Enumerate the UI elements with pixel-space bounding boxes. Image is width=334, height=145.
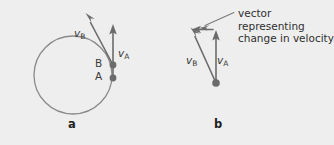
panel-b-vector-b-label: vB	[186, 55, 197, 66]
annotation-leader-line	[205, 13, 234, 26]
panel-b-vector-a-label: vA	[217, 55, 228, 66]
panel-b-origin-dot	[212, 79, 220, 87]
physics-figure: vB vA B A a vector representing change i…	[0, 0, 334, 145]
vector-b-arrowhead	[86, 13, 95, 23]
point-b-label: B	[95, 58, 102, 69]
panel-a-vector-a-label: vA	[118, 48, 129, 59]
panel-b-vector-a-subscript: A	[223, 59, 228, 68]
panel-a-vector-b-label: vB	[74, 28, 85, 39]
panel-b-vector-b-shaft	[195, 37, 216, 84]
point-b-dot	[110, 62, 117, 69]
change-in-velocity-annotation: vector representing change in velocity	[238, 7, 334, 45]
panel-a-vector-a-subscript: A	[124, 52, 129, 61]
panel-b-graphics	[191, 13, 235, 87]
point-a-dot	[110, 75, 117, 82]
panel-b-caption: b	[214, 118, 222, 130]
panel-a-caption: a	[68, 118, 76, 130]
point-a-label: A	[95, 71, 102, 82]
panel-a-vector-b-subscript: B	[80, 32, 85, 41]
panel-b-vector-b-subscript: B	[192, 59, 197, 68]
